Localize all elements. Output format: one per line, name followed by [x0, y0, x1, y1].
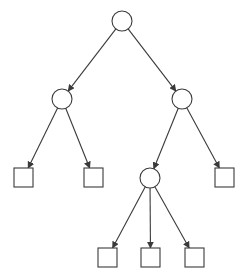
edge-n2-n5	[154, 108, 178, 168]
edge-n0-n2	[128, 29, 176, 91]
square-node-n4	[84, 168, 103, 187]
tree-diagram	[0, 0, 244, 280]
square-node-n3	[14, 168, 33, 187]
square-node-n6	[215, 168, 234, 187]
edge-n1-n3	[28, 108, 57, 168]
edge-n5-n7	[113, 187, 146, 248]
circle-node-n2	[172, 89, 192, 109]
edges-layer	[28, 29, 219, 248]
edge-n0-n1	[68, 29, 116, 91]
tree-diagram-svg	[0, 0, 244, 280]
square-node-n8	[141, 248, 160, 267]
square-node-n7	[98, 248, 117, 267]
square-node-n9	[185, 248, 204, 267]
edge-n2-n6	[187, 108, 220, 168]
edge-n5-n9	[155, 187, 189, 248]
circle-node-n5	[140, 168, 160, 188]
circle-node-n1	[52, 89, 72, 109]
nodes-layer	[14, 11, 234, 267]
edge-n1-n4	[66, 108, 90, 168]
circle-node-n0	[112, 11, 132, 31]
